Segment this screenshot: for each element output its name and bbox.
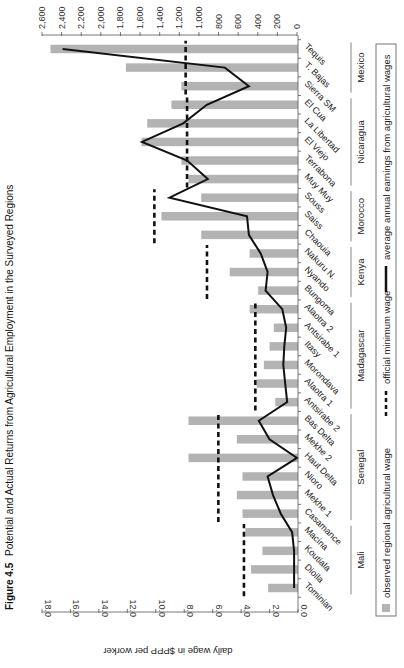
y-tick-label: 10.0 [157, 599, 167, 617]
y-tick-label-group: 10.0 [157, 599, 167, 617]
figure-title-text: Potential and Actual Returns from Agricu… [4, 185, 15, 556]
y-tick-label-group: 0.0 [299, 604, 309, 617]
bar-mekhe-1 [237, 491, 298, 500]
y-tick-label-group: 4.0 [242, 604, 252, 617]
y-tick-label: 18.0 [43, 599, 53, 617]
y2-tick-label: 1,800 [115, 6, 125, 29]
bar-nakuru-n- [250, 249, 298, 258]
bar-nyando [230, 268, 298, 277]
y2-tick-label: 1,000 [194, 6, 204, 29]
group-label-morocco: Morocco [355, 198, 366, 234]
y2-tick-label: 2,200 [76, 6, 86, 29]
y2-tick-label: 2,600 [37, 6, 47, 29]
y2-tick-label: 1,400 [155, 6, 165, 29]
bar-koutiala [262, 547, 298, 556]
y-tick-label-group: 2.0 [271, 604, 281, 617]
bar-bas-delta [188, 416, 298, 425]
y-tick-label: 0.0 [299, 604, 309, 617]
bar-el-cua [171, 101, 298, 110]
bar-sierra-sm [181, 82, 298, 91]
bar-dioila [251, 565, 298, 574]
legend-line-label: average annual earnings from agricultura… [381, 54, 392, 260]
y2-tick-label: 200 [272, 14, 282, 29]
bar-alaotra-1 [257, 379, 298, 388]
legend-minwage-label: official minimum wage [381, 291, 392, 384]
group-label-mali: Mali [355, 551, 366, 568]
svg-text:Figure 4.5 Potential and: Figure 4.5 Potential and Actual Returns … [4, 185, 15, 610]
y2-tick-label: 400 [253, 14, 263, 29]
bar-el-viejo [142, 138, 298, 147]
y2-tick-label: 1,200 [174, 6, 184, 29]
bar-nioro [243, 472, 298, 481]
y-tick-label-group: 18.0 [43, 599, 53, 617]
group-label-senegal: Senegal [355, 450, 366, 485]
legend: observed regional agricultural wage offi… [376, 44, 396, 616]
y2-tick-label: 800 [214, 14, 224, 29]
group-label-kenya: Kenya [355, 258, 366, 286]
y-axis-label: daily wage in $PPP per worker [103, 646, 232, 657]
group-label-nicaragua: Nicaragua [355, 120, 366, 164]
y-tick-label-group: 8.0 [185, 604, 195, 617]
figure-title: Figure 4.5 Potential and Actual Returns … [4, 185, 15, 610]
chart: Figure 4.5 Potential and Actual Returns … [0, 0, 404, 668]
bar-t-bajas [126, 63, 298, 72]
bar-terrabona [181, 156, 298, 165]
y2-tick-label: 2,400 [57, 6, 67, 29]
bar-alaotra-2 [250, 305, 298, 314]
y2-tick-label: 600 [233, 14, 243, 29]
group-label-mexico: Mexico [355, 53, 366, 83]
bar-saiss [161, 212, 298, 221]
y-tick-label: 14.0 [100, 599, 110, 617]
bar-haut-delta [188, 454, 298, 463]
bar-la-libertad [147, 119, 298, 128]
y-tick-label: 6.0 [214, 604, 224, 617]
y-tick-label-group: 14.0 [100, 599, 110, 617]
y-tick-label: 12.0 [128, 599, 138, 617]
y-tick-label: 2.0 [271, 604, 281, 617]
y-tick-label-group: 16.0 [71, 599, 81, 617]
y-tick-label: 16.0 [71, 599, 81, 617]
plot-area: 0.02.04.06.08.010.012.014.016.018.002004… [37, 6, 366, 617]
y2-tick-label: 1,600 [135, 6, 145, 29]
y2-tick-label: 2,000 [96, 6, 106, 29]
y-tick-label: 4.0 [242, 604, 252, 617]
legend-bar-label: observed regional agricultural wage [381, 448, 392, 598]
y-tick-label-group: 6.0 [214, 604, 224, 617]
group-label-madagascar: Madagascar [355, 330, 366, 382]
bar-bungoma [258, 286, 298, 295]
bar-casamance [243, 509, 298, 517]
y-tick-label: 8.0 [185, 604, 195, 617]
bar-morondava [264, 361, 298, 370]
earnings-line [63, 49, 297, 588]
y-tick-label-group: 12.0 [128, 599, 138, 617]
figure-number: Figure 4.5 [4, 562, 15, 610]
legend-bar-swatch [382, 604, 390, 612]
bar-souss [201, 193, 298, 202]
y2-tick-label: 0 [292, 24, 302, 29]
